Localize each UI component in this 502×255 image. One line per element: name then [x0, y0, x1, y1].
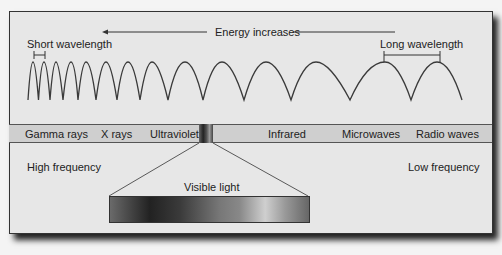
visible-slice	[199, 124, 213, 143]
long-wavelength-label: Long wavelength	[380, 38, 463, 50]
band-ultraviolet: Ultraviolet	[150, 128, 199, 140]
energy-increases-label: Energy increases	[215, 26, 300, 38]
arrow-head-icon	[102, 30, 108, 35]
low-frequency-label: Low frequency	[408, 161, 480, 173]
band-microwaves: Microwaves	[342, 128, 400, 140]
short-wavelength-label: Short wavelength	[27, 38, 112, 50]
band-infrared: Infrared	[268, 128, 306, 140]
wave-path	[28, 62, 462, 100]
band-gamma-rays: Gamma rays	[25, 128, 88, 140]
visible-light-bar	[109, 196, 310, 223]
band-radio-waves: Radio waves	[416, 128, 479, 140]
spectrum-band: Gamma rays X rays Ultraviolet Infrared M…	[9, 124, 492, 143]
high-frequency-label: High frequency	[27, 161, 101, 173]
visible-light-label: Visible light	[184, 181, 239, 193]
band-x-rays: X rays	[101, 128, 132, 140]
